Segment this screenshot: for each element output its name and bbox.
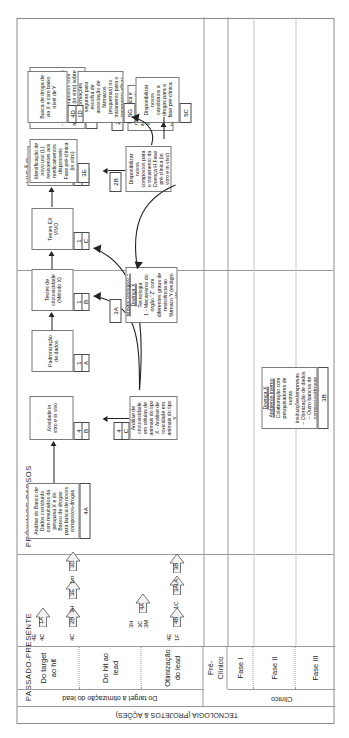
row-label-hit-to-lead: Do hit ao lead <box>79 647 141 689</box>
process-box-1B[interactable]: Testes de citotoxicidade (Método X) <box>31 269 73 311</box>
connector-1B-1C-arrow <box>48 251 54 256</box>
row-label-fase-2: Fase II <box>253 647 295 689</box>
rotated-canvas: PASSADO-PRESENTE PRÓXIMOS PASSOS VISÃO T… <box>0 0 349 738</box>
milestone-2-right: 2B <box>68 617 74 624</box>
milestone-6-left-b: 1F <box>173 634 179 641</box>
process-box-4C-tag-top: 4 <box>115 423 122 439</box>
process-box-1B-text: Testes de citotoxicidade (Método X) <box>43 272 61 308</box>
divider-fase2-fase3 <box>295 17 296 647</box>
milestone-4-left-a: 1m <box>68 576 74 584</box>
connector-1B-1C <box>51 255 52 269</box>
group-label-clinico: Clínico <box>227 689 335 706</box>
row-label-target-to-hit: Do target ao hit <box>17 647 79 689</box>
milestone-7-left-a: 1C <box>172 601 178 609</box>
connector-2A-2B <box>107 170 125 171</box>
process-box-1C[interactable]: Testes EX VIVO <box>31 208 73 250</box>
connector-4A-4B <box>53 445 54 483</box>
process-box-1A[interactable]: Padronização de dados <box>31 330 73 372</box>
milestone-8-right: 3B <box>172 563 178 570</box>
connector-4B-4C <box>107 418 129 419</box>
process-box-4C-text: Análise de citotoxicidade em células de … <box>129 399 177 437</box>
process-box-3B-text: Colaboração com pesquisadores de outras … <box>274 370 317 426</box>
process-box-4D1D-tag-top: 4D <box>69 106 76 122</box>
process-box-1A-text: Padronização de dados <box>46 333 58 369</box>
diagram-page: PASSADO-PRESENTE PRÓXIMOS PASSOS VISÃO T… <box>0 0 349 738</box>
process-box-4D1D-text: Busca de droga de via X e com baixo níve… <box>38 74 56 120</box>
process-box-4D1D[interactable]: Busca de droga de via X e com baixo níve… <box>27 71 67 123</box>
process-box-3A[interactable]: Ensaio Biológico – Doença X Tecnologia 1… <box>125 267 177 323</box>
milestone-5-left-b: 3C 3M <box>136 620 149 628</box>
connector-1A-1B-arrow <box>48 312 54 317</box>
process-box-5C-tag: 5C <box>179 103 191 123</box>
process-box-3A-title: Ensaio Biológico – Doença X <box>125 274 135 317</box>
axis-title-text: TECNOLOGIA (PROJETOS & AÇÕES) <box>115 711 237 720</box>
process-box-1C-text: Testes EX VIVO <box>46 211 58 247</box>
divider-labels-canvas <box>17 646 335 647</box>
divider-preclinic <box>203 17 204 647</box>
process-box-3E-text: Identificação de novo uso (L) resistente… <box>32 142 75 180</box>
divider-fase1-fase2 <box>253 17 254 647</box>
connector-3E-5C <box>163 117 164 139</box>
process-box-3B[interactable]: Ensaio Biológico – Doença X Ambiente int… <box>261 367 317 429</box>
milestone-6-left-a: 4E <box>165 634 171 641</box>
process-box-4A-tag: 4A <box>79 483 90 539</box>
milestone-3-left-a: 3H <box>68 605 74 613</box>
process-box-3E-tag: 3E <box>77 163 89 183</box>
row-label-fase-3: Fase III <box>295 647 335 689</box>
connector-3E-5C-arrow <box>160 122 166 127</box>
connector-3A-to-3E <box>129 175 189 271</box>
process-box-3B-tag: 3B <box>317 367 328 429</box>
connector-1A-1B <box>51 316 52 330</box>
process-box-2B-tag: 2B <box>109 172 121 192</box>
process-box-4A-text: Análise do Banco de Dados construído com… <box>32 486 75 536</box>
process-box-4C-tag-bottom: C <box>122 423 128 439</box>
connector-4B-4C-arrow <box>102 416 107 422</box>
axis-title: TECNOLOGIA (PROJETOS & AÇÕES) <box>17 706 335 723</box>
milestone-6-right: 4B <box>172 617 178 624</box>
milestone-4-right: 3D <box>68 560 74 568</box>
milestone-5-right: 4A <box>138 603 144 610</box>
divider-clinic <box>227 17 228 647</box>
milestone-8-left-a: 1A <box>172 579 178 586</box>
connector-1C-2A <box>51 191 52 207</box>
row-label-pre-clinico: Pré- Clínico <box>203 647 227 689</box>
connector-2B-to-5C <box>125 107 159 147</box>
process-box-4B-text: Atividade in vitro e in vivo <box>45 399 57 437</box>
process-box-3A-tag: 3A <box>109 299 121 323</box>
process-box-4D1D-tag-bottom: 1D <box>76 106 82 122</box>
process-box-4B-tag: 4 B <box>73 422 89 440</box>
milestone-2-left-a: 4C <box>68 633 74 641</box>
diagram-frame: PASSADO-PRESENTE PRÓXIMOS PASSOS VISÃO T… <box>16 18 334 724</box>
milestone-1-right: 1A <box>37 617 43 624</box>
connector-2A-2B-arrow <box>102 168 107 174</box>
process-box-3B-title: Ensaio Biológico – Doença X Ambiente int… <box>261 377 273 420</box>
process-box-4C-tag: 4 C <box>113 422 129 440</box>
row-label-lead-optimization: Otimização do lead <box>141 647 203 689</box>
milestone-5-left-a: 3H <box>127 620 133 628</box>
group-label-lead-optimization: Do target à otimização do lead <box>17 689 203 706</box>
milestone-1-left-a: 4E <box>30 634 36 641</box>
process-box-5G[interactable]: Disponibilizar informações seguras para … <box>77 71 123 123</box>
process-box-3A-text: Tecnologia 1 - Mecanismo do órgão "Z" co… <box>136 270 177 320</box>
process-box-4B[interactable]: Atividade in vitro e in vivo <box>29 396 73 440</box>
process-box-4B-tag-bottom: B <box>82 423 88 439</box>
process-box-4C[interactable]: Análise de citotoxicidade em células de … <box>129 396 177 440</box>
row-label-fase-1: Fase I <box>227 647 253 689</box>
process-box-3E[interactable]: Identificação de novo uso (L) resistente… <box>29 139 77 183</box>
milestone-3-right: 3E <box>68 589 74 596</box>
milestone-1-left-b: 4C <box>38 633 44 641</box>
connector-4A-4B-arrow <box>50 441 56 446</box>
process-box-4D1D-tag: 4D 1D <box>67 105 83 123</box>
process-box-5G-text: Disponibilizar informações seguras para … <box>77 74 123 120</box>
process-box-4A[interactable]: Análise do Banco de Dados construído com… <box>27 483 79 539</box>
connector-1C-2A-arrow <box>48 187 54 192</box>
process-box-4B-tag-top: 4 <box>75 423 82 439</box>
